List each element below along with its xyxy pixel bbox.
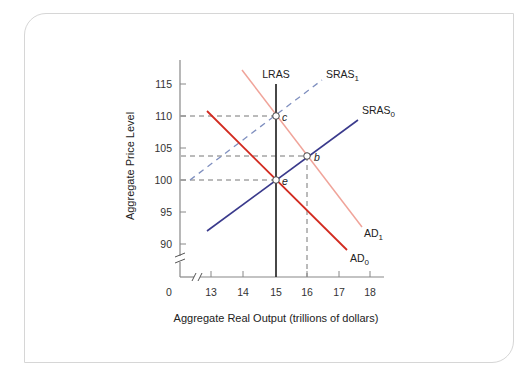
point-c — [273, 113, 280, 120]
point-c-label: c — [282, 111, 288, 123]
sras1-curve — [190, 80, 322, 180]
y-tick-100: 100 — [154, 174, 172, 186]
x-tick-17: 17 — [333, 286, 345, 298]
y-ticks — [180, 84, 186, 244]
x-tick-18: 18 — [364, 286, 376, 298]
y-tick-95: 95 — [160, 206, 172, 218]
x-ticks — [211, 271, 370, 277]
point-b-label: b — [314, 151, 320, 163]
point-e — [273, 177, 280, 184]
x-tick-16: 16 — [301, 286, 313, 298]
x-tick-13: 13 — [205, 286, 217, 298]
x-axis-title: Aggregate Real Output (trillions of doll… — [174, 312, 379, 324]
y-tick-110: 110 — [155, 110, 172, 122]
reference-lines — [181, 116, 307, 277]
x-tick-15: 15 — [270, 286, 282, 298]
sras0-label: SRAS0 — [362, 104, 396, 119]
ad1-label: AD1 — [364, 227, 384, 242]
ad1-curve — [242, 70, 362, 227]
axes — [180, 60, 384, 277]
point-b — [304, 153, 311, 160]
lras-label: LRAS — [262, 68, 289, 80]
ad0-label: AD0 — [350, 252, 370, 267]
y-tick-90: 90 — [160, 238, 172, 250]
y-tick-105: 105 — [154, 142, 172, 154]
y-tick-115: 115 — [155, 78, 172, 90]
y-axis-title: Aggregate Price Level — [124, 112, 136, 220]
x-tick-14: 14 — [237, 286, 249, 298]
point-e-label: e — [282, 175, 288, 187]
x-tick-0: 0 — [166, 286, 172, 298]
sras1-label: SRAS1 — [326, 68, 360, 83]
